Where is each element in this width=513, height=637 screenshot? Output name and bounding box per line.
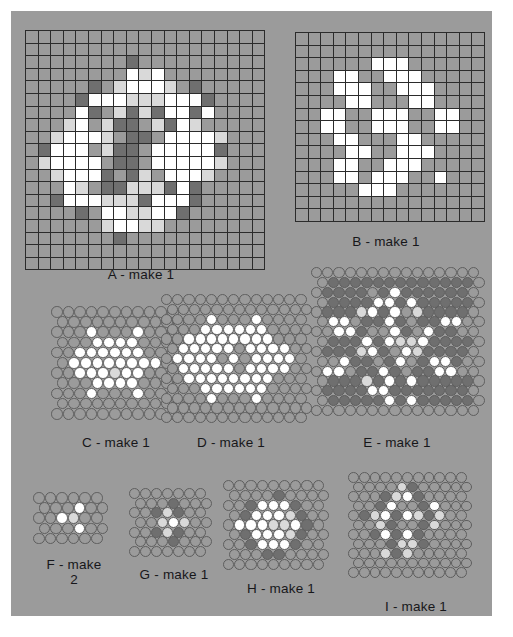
grid-cell (139, 132, 151, 144)
grid-cell (165, 56, 177, 68)
bead (45, 533, 57, 545)
grid-cell (472, 71, 484, 83)
grid-cell (253, 94, 265, 106)
grid-cell (114, 207, 126, 219)
grid-cell (102, 44, 114, 56)
grid-cell (76, 132, 88, 144)
grid-cell (321, 197, 333, 209)
grid-cell (321, 134, 333, 146)
grid-cell (51, 119, 63, 131)
grid-cell (51, 207, 63, 219)
grid-cell (409, 58, 421, 70)
grid-cell (102, 182, 114, 194)
grid-cell (309, 159, 321, 171)
grid-cell (39, 220, 51, 232)
grid-cell (177, 144, 189, 156)
grid-cell (397, 96, 409, 108)
grid-cell (177, 107, 189, 119)
grid-cell (296, 197, 308, 209)
grid-cell (346, 134, 358, 146)
grid-cell (190, 157, 202, 169)
bead (63, 408, 75, 420)
grid-cell (253, 195, 265, 207)
grid-cell (296, 172, 308, 184)
grid-cell (190, 94, 202, 106)
grid-cell (309, 134, 321, 146)
grid-cell (64, 144, 76, 156)
grid-cell (346, 172, 358, 184)
bead (424, 567, 435, 578)
grid-cell (435, 197, 447, 209)
grid-cell (165, 94, 177, 106)
grid-cell (460, 159, 472, 171)
grid-cell (89, 56, 101, 68)
grid-cell (102, 233, 114, 245)
grid-cell (39, 207, 51, 219)
grid-cell (409, 197, 421, 209)
grid-cell (114, 94, 126, 106)
grid-cell (397, 71, 409, 83)
grid-cell (26, 233, 38, 245)
grid-cell (409, 146, 421, 158)
grid-cell (190, 233, 202, 245)
grid-cell (296, 146, 308, 158)
grid-cell (321, 146, 333, 158)
pattern-label-g: G - make 1 (109, 567, 239, 582)
grid-cell (202, 31, 214, 43)
grid-cell (215, 207, 227, 219)
grid-cell (51, 170, 63, 182)
grid-cell (321, 209, 333, 221)
bead (423, 405, 434, 416)
grid-cell (202, 144, 214, 156)
pattern-grid-b (295, 32, 485, 222)
grid-cell (114, 44, 126, 56)
grid-cell (372, 71, 384, 83)
grid-cell (39, 81, 51, 93)
grid-cell (127, 94, 139, 106)
grid-cell (190, 44, 202, 56)
grid-cell (253, 69, 265, 81)
grid-cell (51, 195, 63, 207)
grid-cell (240, 157, 252, 169)
grid-cell (253, 182, 265, 194)
grid-cell (114, 182, 126, 194)
grid-cell (384, 146, 396, 158)
grid-cell (359, 172, 371, 184)
grid-cell (165, 119, 177, 131)
grid-cell (422, 146, 434, 158)
grid-cell (372, 209, 384, 221)
bead (121, 408, 133, 420)
grid-cell (253, 44, 265, 56)
grid-cell (321, 184, 333, 196)
grid-cell (460, 71, 472, 83)
grid-cell (64, 107, 76, 119)
grid-cell (114, 132, 126, 144)
grid-cell (102, 94, 114, 106)
grid-cell (253, 144, 265, 156)
grid-cell (447, 83, 459, 95)
grid-cell (26, 69, 38, 81)
grid-cell (139, 107, 151, 119)
grid-cell (309, 209, 321, 221)
grid-cell (39, 144, 51, 156)
grid-cell (89, 220, 101, 232)
grid-cell (435, 46, 447, 58)
grid-cell (102, 81, 114, 93)
bead (412, 405, 423, 416)
grid-cell (26, 94, 38, 106)
grid-cell (460, 33, 472, 45)
grid-cell (76, 119, 88, 131)
grid-cell (202, 157, 214, 169)
grid-cell (253, 207, 265, 219)
grid-cell (26, 119, 38, 131)
grid-cell (346, 46, 358, 58)
grid-cell (334, 172, 346, 184)
grid-cell (177, 94, 189, 106)
grid-cell (202, 81, 214, 93)
grid-cell (177, 56, 189, 68)
grid-cell (215, 132, 227, 144)
bead (367, 405, 378, 416)
grid-cell (76, 182, 88, 194)
grid-cell (472, 121, 484, 133)
grid-cell (139, 195, 151, 207)
